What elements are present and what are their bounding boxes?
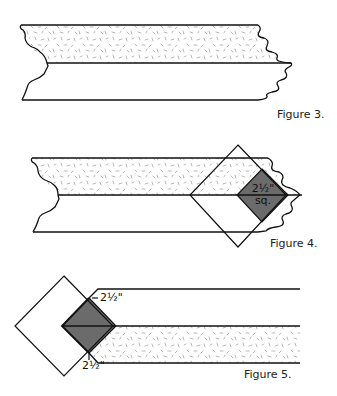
figure-5-dimension-top: 2½": [100, 291, 123, 304]
figure-5-patterned-strip: [89, 326, 300, 363]
figure-5-dimension-bottom: 2½": [82, 359, 105, 372]
figure-3-drawing: [20, 25, 291, 100]
figure-3-patterned-strip: [21, 25, 291, 63]
figure-5-drawing: [15, 276, 300, 376]
figure-5-caption: Figure 5.: [244, 368, 292, 381]
figure-4-square-unit: sq.: [248, 195, 278, 207]
figure-4-caption: Figure 4.: [270, 237, 318, 250]
diagram-canvas: [0, 0, 337, 396]
figure-3-caption: Figure 3.: [277, 108, 325, 121]
figure-4-square-label: 2½" sq.: [248, 183, 278, 207]
